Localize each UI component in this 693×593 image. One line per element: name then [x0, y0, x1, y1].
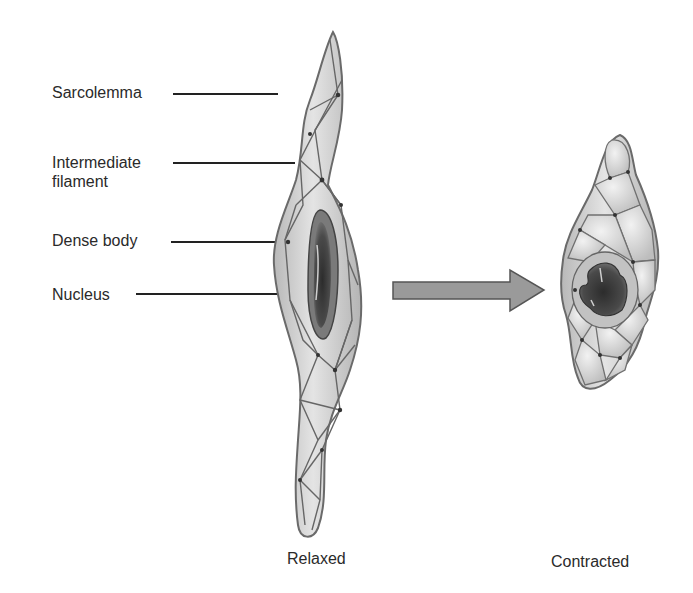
smooth-muscle-illustration [0, 0, 693, 593]
caption-relaxed: Relaxed [287, 550, 346, 568]
relaxed-cell [274, 32, 361, 537]
relaxed-nucleus [308, 210, 338, 339]
arrow-icon [393, 270, 544, 311]
caption-contracted: Contracted [551, 553, 629, 571]
contracted-cell [561, 135, 658, 389]
